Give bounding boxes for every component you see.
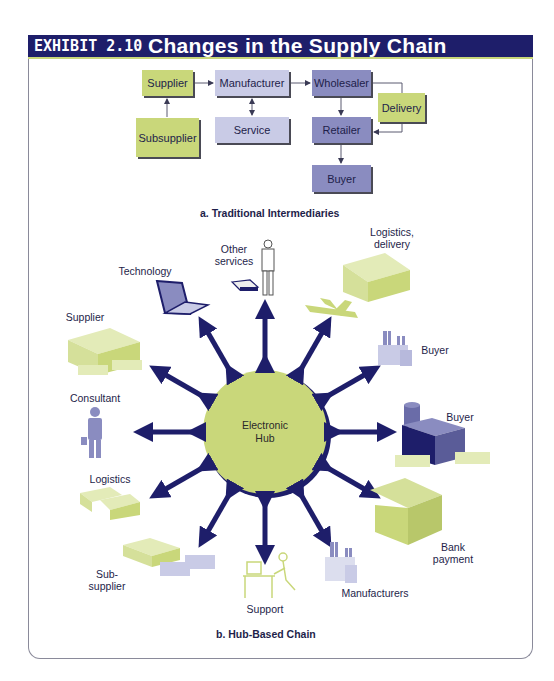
person-icon [262, 240, 274, 295]
supplier-buildings-icon [68, 328, 142, 375]
label-buyer-right: Buyer [440, 411, 480, 423]
printer-icon [232, 280, 258, 291]
label-consultant: Consultant [65, 392, 125, 404]
bank-icon [370, 478, 442, 545]
caption-hub: b. Hub-Based Chain [216, 628, 316, 640]
arrow-330 [326, 467, 373, 494]
subsupplier-icon [123, 538, 215, 576]
warehouse-icon [343, 253, 410, 302]
label-support: Support [240, 603, 290, 615]
label-other-services: Otherservices [214, 243, 254, 267]
hub-label: Electronic Hub [215, 419, 315, 445]
arrow-60 [300, 324, 327, 371]
label-bank-payment: Bankpayment [428, 541, 478, 565]
arrow-300 [300, 493, 327, 540]
label-supplier: Supplier [60, 311, 110, 323]
trucks-icon [80, 487, 140, 520]
label-buyer-top: Buyer [415, 344, 455, 356]
arrow-240 [203, 493, 230, 540]
support-desk-icon [243, 553, 295, 598]
label-logistics-delivery: Logistics,delivery [362, 226, 422, 250]
hub-diagram [0, 0, 554, 681]
label-logistics: Logistics [85, 473, 135, 485]
arrow-120 [203, 324, 230, 371]
label-technology: Technology [115, 265, 175, 277]
arrow-30 [326, 370, 373, 397]
factory-icon-manufacturers [325, 542, 357, 583]
laptop-icon [157, 281, 208, 314]
arrow-210 [157, 467, 204, 494]
factory-icon-buyer [378, 331, 412, 366]
consultant-icon [81, 407, 102, 458]
airplane-icon [305, 298, 358, 318]
label-subsupplier: Sub-supplier [87, 568, 127, 592]
label-manufacturers: Manufacturers [335, 587, 415, 599]
arrow-150 [157, 370, 204, 397]
